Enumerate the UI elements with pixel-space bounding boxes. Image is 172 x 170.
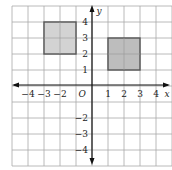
x-tick-label: 1 [105, 89, 111, 99]
y-tick-label: 1 [82, 65, 88, 75]
x-tick-label: 2 [121, 89, 127, 99]
x-tick-label: −4 [21, 89, 35, 99]
y-axis-label: y [95, 6, 102, 16]
coordinate-grid: −4−3−212344321−2−3−4Oxy [0, 0, 172, 170]
y-tick-label: −2 [75, 113, 88, 123]
y-tick-label: 2 [82, 49, 88, 59]
x-axis-left-arrow-icon [12, 83, 19, 88]
x-axis-right-arrow-icon [163, 83, 170, 88]
y-tick-label: −4 [75, 145, 89, 155]
y-axis-down-arrow-icon [90, 158, 95, 165]
x-tick-label: −3 [37, 89, 51, 99]
x-tick-label: 4 [153, 89, 159, 99]
x-tick-label: 3 [137, 89, 143, 99]
x-axis-label: x [164, 89, 169, 99]
y-tick-label: −3 [75, 129, 89, 139]
axes [12, 5, 170, 165]
x-tick-label: −2 [53, 89, 66, 99]
y-tick-label: 4 [82, 17, 88, 27]
y-tick-label: 3 [82, 33, 88, 43]
origin-label: O [79, 89, 87, 99]
